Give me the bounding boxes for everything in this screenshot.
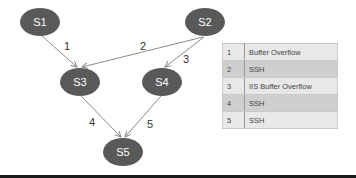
edge-label-1: 1 <box>64 40 70 52</box>
legend-num: 5 <box>223 112 245 129</box>
edge-label-3: 3 <box>183 53 189 65</box>
legend-name: SSH <box>245 61 338 78</box>
node-s5: S5 <box>103 138 143 166</box>
legend-name: Buffer Overflow <box>245 44 338 61</box>
node-s2: S2 <box>185 8 225 36</box>
legend-row: 5 SSH <box>223 112 338 129</box>
legend-name: SSH <box>245 95 338 112</box>
edge-label-5: 5 <box>147 118 153 130</box>
legend-row: 4 SSH <box>223 95 338 112</box>
svg-text:S1: S1 <box>33 16 46 28</box>
edge-1 <box>42 36 77 67</box>
legend-row: 1 Buffer Overflow <box>223 44 338 61</box>
legend-name: SSH <box>245 112 338 129</box>
legend-name: IIS Buffer Overflow <box>245 78 338 95</box>
bottom-border <box>0 175 356 178</box>
edge-label-4: 4 <box>89 116 95 128</box>
legend-num: 3 <box>223 78 245 95</box>
node-s1: S1 <box>20 8 60 36</box>
legend-num: 4 <box>223 95 245 112</box>
legend-row: 2 SSH <box>223 61 338 78</box>
edge-label-2: 2 <box>140 40 146 52</box>
node-s4: S4 <box>142 68 182 96</box>
svg-text:S4: S4 <box>155 76 168 88</box>
edge-5 <box>125 96 161 137</box>
edge-4 <box>81 96 121 137</box>
node-s3: S3 <box>60 68 100 96</box>
legend-num: 1 <box>223 44 245 61</box>
svg-text:S5: S5 <box>116 146 129 158</box>
legend-row: 3 IIS Buffer Overflow <box>223 78 338 95</box>
nodes: S1 S2 S3 S4 S5 <box>20 8 225 166</box>
exploit-legend-table: 1 Buffer Overflow 2 SSH 3 IIS Buffer Ove… <box>222 43 338 129</box>
svg-text:S2: S2 <box>198 16 211 28</box>
legend-num: 2 <box>223 61 245 78</box>
svg-text:S3: S3 <box>73 76 86 88</box>
